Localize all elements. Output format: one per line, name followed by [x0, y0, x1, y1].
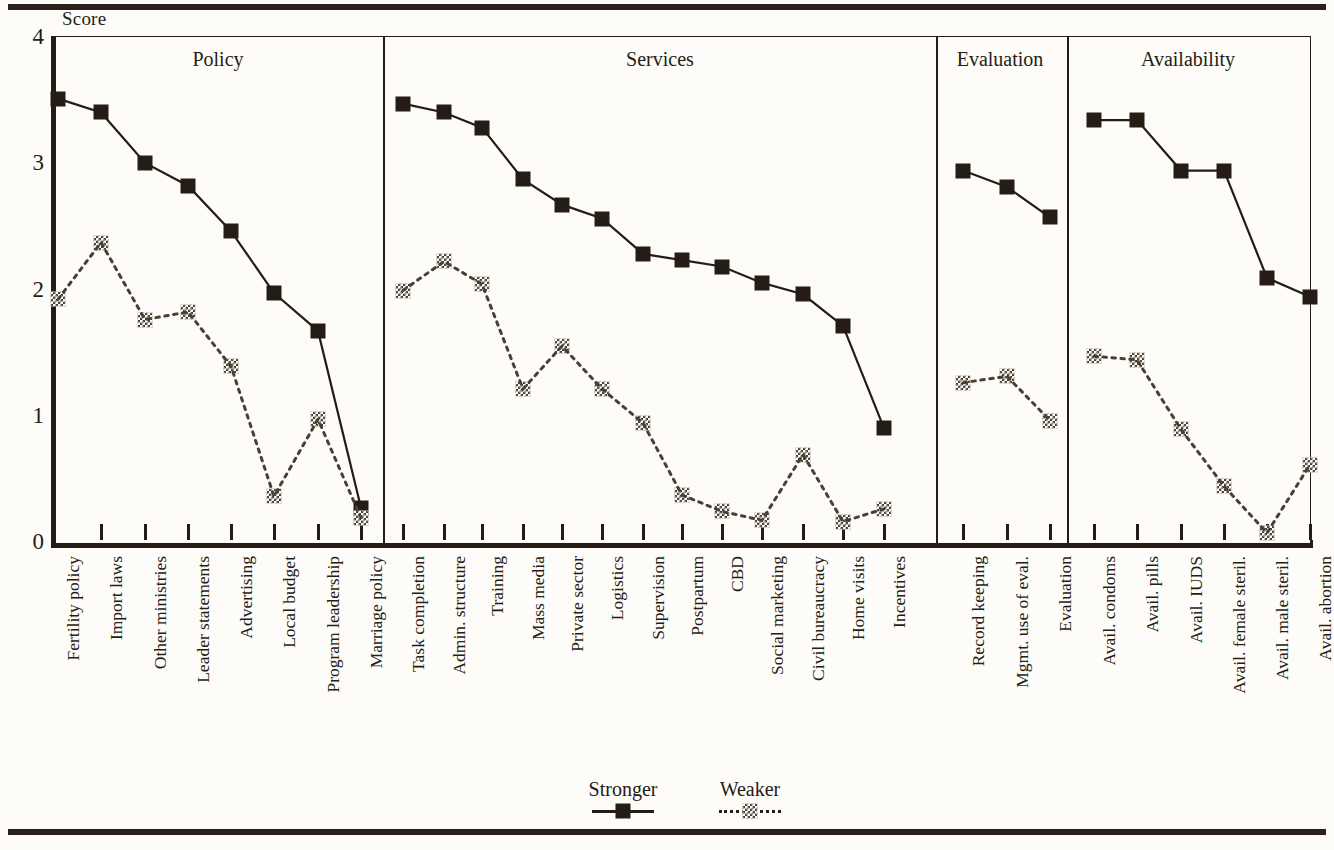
x-label-avail-iuds: Avail. IUDS: [1188, 556, 1206, 643]
marker-stronger: [224, 224, 239, 239]
x-tick-mark: [561, 524, 564, 540]
x-label-record-keeping: Record keeping: [970, 556, 988, 666]
group-title-evaluation: Evaluation: [957, 48, 1044, 71]
y-axis-title: Score: [62, 8, 106, 30]
x-label-postpartum: Postpartum: [689, 556, 707, 636]
marker-stronger: [51, 91, 66, 106]
x-tick-mark: [273, 524, 276, 540]
x-tick-mark: [802, 524, 805, 540]
legend-symbol-weaker: [690, 803, 810, 819]
x-label-avail-condoms: Avail. condoms: [1101, 556, 1119, 666]
x-label-admin-structure: Admin. structure: [451, 556, 469, 675]
marker-weaker: [1043, 413, 1058, 428]
marker-stronger: [1000, 179, 1015, 194]
marker-weaker: [181, 304, 196, 319]
x-label-mgmt-use-of-eval: Mgmt. use of eval.: [1014, 556, 1032, 688]
marker-stronger: [715, 259, 730, 274]
marker-stronger: [475, 120, 490, 135]
x-label-other-ministries: Other ministries: [152, 556, 170, 669]
chart-plot-area: [55, 36, 1311, 544]
marker-weaker: [595, 381, 610, 396]
marker-weaker: [1174, 422, 1189, 437]
x-label-private-sector: Private sector: [569, 556, 587, 652]
group-title-policy: Policy: [192, 48, 243, 71]
marker-weaker: [94, 235, 109, 250]
marker-stronger: [1260, 270, 1275, 285]
marker-stronger: [595, 211, 610, 226]
marker-stronger: [516, 172, 531, 187]
marker-weaker: [836, 514, 851, 529]
marker-stronger: [555, 197, 570, 212]
marker-stronger: [1043, 210, 1058, 225]
x-tick-mark: [1136, 524, 1139, 540]
marker-stronger: [755, 275, 770, 290]
marker-weaker: [675, 488, 690, 503]
x-label-cbd: CBD: [729, 556, 747, 592]
marker-stronger: [675, 253, 690, 268]
marker-weaker: [555, 339, 570, 354]
x-label-program-leadership: Program leadership: [325, 556, 343, 693]
x-label-import-laws: Import laws: [108, 556, 126, 640]
marker-stronger: [1303, 289, 1318, 304]
x-tick-mark: [481, 524, 484, 540]
x-tick-mark: [443, 524, 446, 540]
x-tick-mark: [1223, 524, 1226, 540]
marker-weaker: [516, 381, 531, 396]
x-label-local-budget: Local budget: [281, 556, 299, 648]
group-divider-3: [1067, 37, 1069, 545]
x-label-social-marketing: Social marketing: [769, 556, 787, 675]
marker-weaker: [267, 489, 282, 504]
x-tick-mark: [100, 524, 103, 540]
y-tick-label-1: 1: [8, 403, 44, 429]
marker-stronger: [796, 287, 811, 302]
marker-weaker: [354, 510, 369, 525]
marker-stronger: [636, 246, 651, 261]
marker-stronger: [877, 421, 892, 436]
x-label-avail-male-steril: Avail. male steril.: [1274, 556, 1292, 680]
y-tick-label-2: 2: [8, 277, 44, 303]
group-divider-2: [936, 37, 938, 545]
x-label-supervision: Supervision: [650, 556, 668, 640]
x-tick-mark: [1093, 524, 1096, 540]
marker-weaker: [1000, 369, 1015, 384]
marker-weaker: [396, 283, 411, 298]
x-tick-mark: [962, 524, 965, 540]
marker-stronger: [1087, 113, 1102, 128]
marker-weaker: [715, 504, 730, 519]
marker-stronger: [1217, 163, 1232, 178]
marker-stronger: [396, 96, 411, 111]
x-tick-mark: [1049, 524, 1052, 540]
marker-weaker: [311, 412, 326, 427]
marker-stronger: [836, 318, 851, 333]
marker-weaker: [1130, 352, 1145, 367]
marker-stronger: [94, 105, 109, 120]
x-label-civil-bureaucracy: Civil bureaucracy: [810, 556, 828, 681]
marker-stronger: [267, 286, 282, 301]
marker-weaker: [475, 277, 490, 292]
x-label-avail-pills: Avail. pills: [1144, 556, 1162, 632]
x-label-leader-statements: Leader statements: [195, 556, 213, 683]
marker-weaker: [437, 254, 452, 269]
x-label-marriage-policy: Marriage policy: [368, 556, 386, 668]
x-tick-mark: [681, 524, 684, 540]
x-tick-mark: [230, 524, 233, 540]
marker-weaker: [1087, 349, 1102, 364]
x-tick-mark: [1006, 524, 1009, 540]
marker-stronger: [181, 178, 196, 193]
marker-stronger: [138, 155, 153, 170]
marker-weaker: [51, 292, 66, 307]
x-tick-mark: [144, 524, 147, 540]
marker-stronger: [1174, 163, 1189, 178]
x-label-logistics: Logistics: [609, 556, 627, 620]
chart-legend: Stronger Weaker: [0, 778, 1334, 828]
marker-stronger: [311, 323, 326, 338]
top-horizontal-rule: [8, 4, 1326, 10]
x-label-avail-abortion: Avail. abortion: [1317, 556, 1334, 661]
x-tick-mark: [402, 524, 405, 540]
group-title-services: Services: [626, 48, 694, 71]
x-tick-mark: [721, 524, 724, 540]
x-label-mass-media: Mass media: [530, 556, 548, 640]
x-label-home-visits: Home visits: [850, 556, 868, 640]
x-label-task-completion: Task completion: [410, 556, 428, 672]
marker-stronger: [437, 105, 452, 120]
